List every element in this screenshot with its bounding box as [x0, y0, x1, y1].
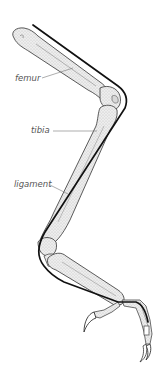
femur-label: femur	[15, 74, 40, 83]
tibia-bone	[40, 105, 117, 246]
toes	[84, 300, 152, 362]
femur-bone	[13, 28, 109, 100]
bird-leg-diagram: femur tibia ligament	[0, 0, 168, 371]
rear-claw-icon	[84, 312, 96, 332]
tibia-label: tibia	[31, 126, 50, 135]
ligament-label: ligament	[14, 180, 52, 189]
